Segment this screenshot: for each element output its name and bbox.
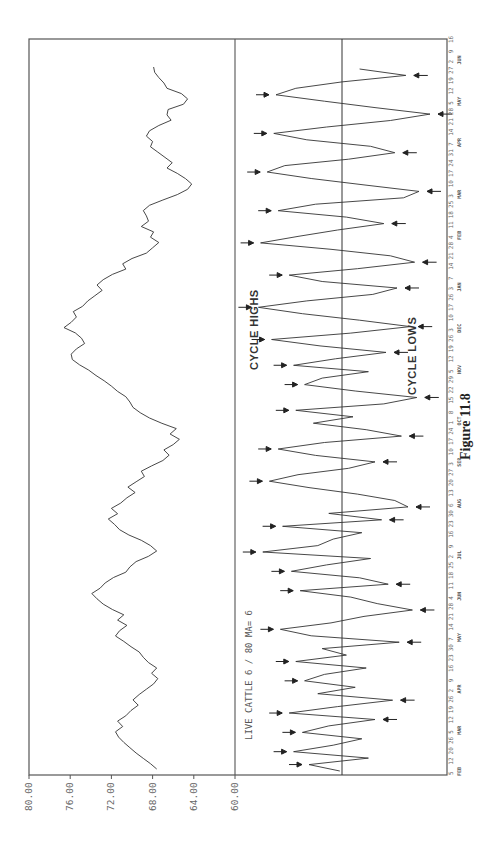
cycle-high-arrow-head [293,678,298,683]
cycle-high-arrow-head [293,382,298,387]
x-tick-label: 3 [447,328,454,332]
cycle-high-arrow-head [271,524,276,529]
cycle-high-arrow-head [251,550,256,555]
x-month-label: DEC [456,324,462,333]
x-tick-label: 16 [447,530,454,538]
cycle-high-arrow-head [257,479,262,484]
oscillator-line [258,69,430,771]
x-tick-label: 6 [447,503,454,507]
x-month-label: MAY [456,97,462,106]
x-tick-label: 14 [447,128,454,136]
x-tick-label: 21 [447,252,454,260]
cycle-high-arrow-head [260,337,265,342]
cycle-low-arrow-head [403,150,408,155]
x-tick-label: 19 [447,345,454,353]
x-tick-label: 23 [447,520,454,528]
y-tick-label: 72.00 [105,782,116,811]
x-tick-label: 10 [447,448,454,456]
x-month-label: MAR [456,189,462,199]
y-tick-label: 60.00 [229,782,240,811]
x-month-label: JUL [456,550,462,559]
cycle-low-arrow-head [420,607,425,612]
cycle-low-arrow-head [383,459,388,464]
x-tick-label: 10 [447,314,454,322]
x-tick-label: 15 [447,396,454,404]
x-tick-label: 21 [447,118,454,126]
x-tick-label: 31 [447,149,454,157]
x-tick-label: 27 [447,468,454,476]
x-tick-label: 27 [447,66,454,74]
x-tick-label: 29 [447,376,454,384]
x-tick-label: 4 [447,235,454,239]
x-tick-label: 7 [447,142,454,146]
cycle-high-arrow-head [282,749,287,754]
x-tick-label: 9 [447,678,454,682]
x-tick-label: 28 [447,242,454,250]
x-tick-label: 1 [447,420,454,424]
cycle-low-arrow-head [416,504,421,509]
cycle-low-arrow-head [401,698,406,703]
x-tick-label: 11 [447,582,454,590]
cycle-high-arrow-head [297,762,302,767]
cycle-high-arrow-head [282,363,287,368]
cycle-high-arrow-head [279,569,284,574]
cycle-high-arrow-head [249,240,254,245]
x-tick-label: 17 [447,169,454,177]
x-tick-label: 3 [447,194,454,198]
x-tick-label: 8 [447,410,454,414]
x-month-label: FEB [456,767,462,776]
x-tick-label: 30 [447,644,454,652]
figure-caption: Figure 11.8 [458,393,473,460]
cycle-low-arrow-head [390,517,395,522]
x-tick-label: 5 [447,771,454,775]
cycle-high-arrow-head [288,588,293,593]
x-tick-label: 2 [447,60,454,64]
x-month-label: NOV [456,365,462,374]
x-tick-label: 16 [447,35,454,43]
cycle-high-arrow-head [266,208,271,213]
x-tick-label: 26 [447,334,454,342]
cycle-low-arrow-head [392,221,397,226]
x-tick-label: 11 [447,221,454,229]
x-tick-label: 12 [447,355,454,363]
x-tick-label: 21 [447,613,454,621]
x-tick-label: 24 [447,159,454,167]
cycle-low-arrow-head [438,112,443,117]
cycle-low-arrow-head [407,640,412,645]
chart-figure: 80.0076.0072.0068.0064.0060.00 512202651… [0,0,500,844]
cycle-low-arrow-head [396,582,401,587]
x-month-label: APR [456,137,462,147]
x-tick-label: 14 [447,623,454,631]
cycle-high-arrow-head [268,627,273,632]
x-tick-label: 5 [447,730,454,734]
x-month-label: MAR [456,725,462,735]
x-tick-label: 25 [447,200,454,208]
y-tick-label: 68.00 [147,782,158,811]
x-tick-label: 13 [447,489,454,497]
x-tick-label: 26 [447,736,454,744]
cycle-low-arrow-head [418,324,423,329]
x-tick-label: 9 [447,49,454,53]
x-month-label: JAN [456,282,462,291]
y-axis: 80.0076.0072.0068.0064.0060.00 [23,775,240,811]
x-month-label: JUN [456,592,462,601]
x-tick-label: 7 [447,276,454,280]
cycle-highs-label: CYCLE HIGHS [248,289,260,370]
x-tick-label: 25 [447,561,454,569]
x-tick-label: 7 [447,637,454,641]
x-tick-label: 24 [447,427,454,435]
cycle-low-arrow-head [423,260,428,265]
x-tick-label: 17 [447,437,454,445]
x-month-label: FEB [456,231,462,240]
cycle-high-arrow-head [290,730,295,735]
x-tick-label: 14 [447,262,454,270]
cycle-lows-label: CYCLE LOWS [406,317,418,395]
price-line [64,67,192,769]
cycle-low-arrow-head [414,73,419,78]
x-tick-label: 9 [447,544,454,548]
y-tick-label: 76.00 [64,782,75,811]
chart-title: LIVE CATTLE 6 / 80 MA= 6 [244,610,254,740]
x-tick-label: 5 [447,369,454,373]
cycle-low-arrow-head [405,285,410,290]
x-tick-label: 2 [447,554,454,558]
